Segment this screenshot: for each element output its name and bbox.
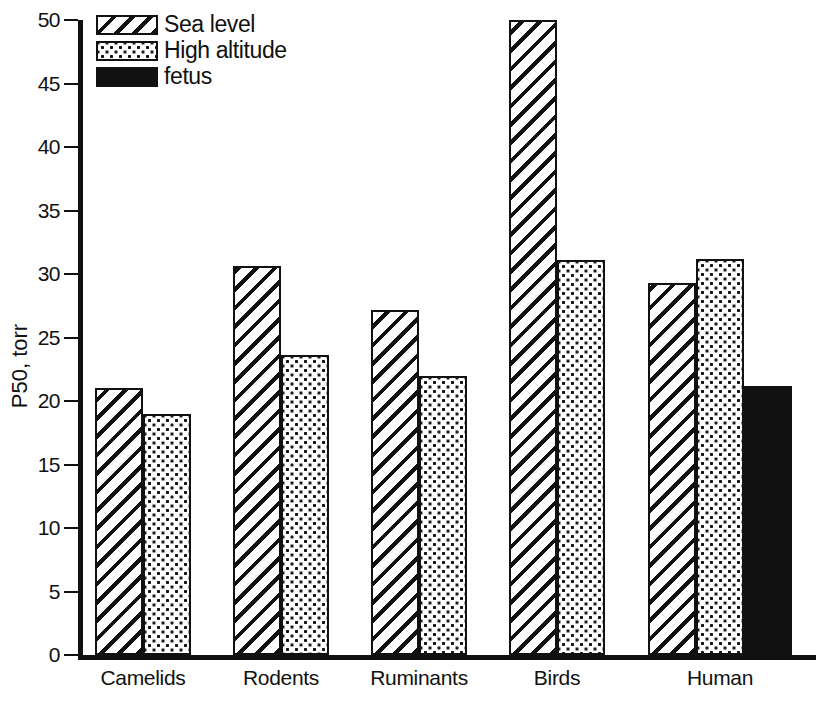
bar-chart: 05101520253035404550 P50, torr CamelidsR… — [0, 0, 817, 717]
legend-swatch-high-altitude-icon — [96, 41, 158, 61]
legend-swatch-sea-level-icon — [96, 15, 158, 35]
legend-swatch-fetus-icon — [96, 67, 158, 87]
legend-label: High altitude — [164, 39, 287, 62]
bar-camelids-sea-level — [95, 388, 143, 655]
bar-birds-sea-level — [509, 20, 557, 655]
bar-ruminants-high-altitude — [419, 376, 467, 655]
bar-human-high-altitude — [696, 259, 744, 655]
bar-human-sea-level — [648, 283, 696, 655]
bar-ruminants-sea-level — [371, 310, 419, 655]
bar-camelids-high-altitude — [143, 414, 191, 655]
legend-item-fetus: fetus — [96, 64, 287, 89]
legend-label: fetus — [164, 65, 212, 88]
bar-rodents-sea-level — [233, 266, 281, 655]
bar-birds-high-altitude — [557, 260, 605, 655]
x-axis-label-human: Human — [630, 666, 810, 690]
bar-rodents-high-altitude — [281, 355, 329, 655]
legend-item-sea-level: Sea level — [96, 12, 287, 37]
plot-area — [0, 0, 817, 717]
legend-item-high-altitude: High altitude — [96, 38, 287, 63]
legend-label: Sea level — [164, 13, 255, 36]
bar-human-fetus — [744, 386, 792, 655]
x-axis-label-birds: Birds — [467, 666, 647, 690]
chart-legend: Sea levelHigh altitudefetus — [96, 12, 287, 90]
